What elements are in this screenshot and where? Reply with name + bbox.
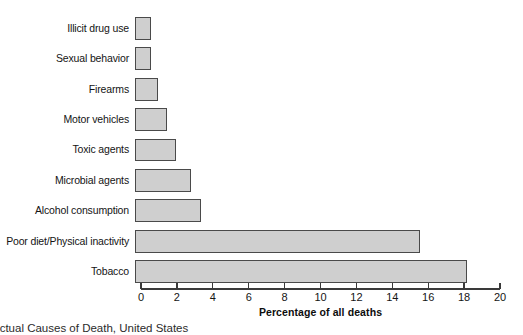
category-label: Toxic agents xyxy=(0,144,135,155)
bar-row: Motor vehicles xyxy=(0,108,523,131)
x-axis-tick xyxy=(320,283,321,289)
category-label: Microbial agents xyxy=(0,175,135,186)
bar xyxy=(135,78,158,101)
bar xyxy=(135,199,201,222)
x-axis-tick xyxy=(463,283,464,289)
category-label: Sexual behavior xyxy=(0,53,135,64)
x-axis-tick xyxy=(392,283,393,289)
bar-row: Sexual behavior xyxy=(0,47,523,70)
x-axis-tick xyxy=(428,283,429,289)
category-label: Poor diet/Physical inactivity xyxy=(0,236,135,247)
x-axis-tick-label: 14 xyxy=(372,291,412,304)
x-axis-tick xyxy=(248,283,249,289)
bar-track xyxy=(135,108,523,131)
x-axis-title: Percentage of all deaths xyxy=(141,306,500,318)
category-label: Illicit drug use xyxy=(0,23,135,34)
bar-track xyxy=(135,47,523,70)
x-axis-tick xyxy=(212,283,213,289)
x-axis-tick-label: 2 xyxy=(157,291,197,304)
bar-row: Firearms xyxy=(0,78,523,101)
bar-track xyxy=(135,230,523,253)
x-axis-tick xyxy=(356,283,357,289)
x-axis-tick-label: 8 xyxy=(265,291,305,304)
bar-row: Illicit drug use xyxy=(0,17,523,40)
bar xyxy=(135,47,151,70)
bar-row: Tobacco xyxy=(0,260,523,283)
x-axis-tick-label: 16 xyxy=(408,291,448,304)
bar-row: Microbial agents xyxy=(0,169,523,192)
x-axis-tick xyxy=(176,283,177,289)
x-axis-tick xyxy=(140,283,141,289)
x-axis-tick-label: 6 xyxy=(229,291,269,304)
x-axis-tick-label: 0 xyxy=(121,291,161,304)
bar-track xyxy=(135,199,523,222)
category-label: Firearms xyxy=(0,84,135,95)
bar xyxy=(135,230,420,253)
x-axis-tick-label: 12 xyxy=(336,291,376,304)
bar-track xyxy=(135,169,523,192)
bar xyxy=(135,17,151,40)
bar xyxy=(135,260,467,283)
bar xyxy=(135,139,176,162)
x-axis-tick-label: 18 xyxy=(444,291,484,304)
bar-track xyxy=(135,17,523,40)
bar-row: Poor diet/Physical inactivity xyxy=(0,230,523,253)
category-label: Tobacco xyxy=(0,266,135,277)
bar xyxy=(135,169,191,192)
x-axis-tick xyxy=(499,283,500,289)
x-axis-tick-label: 4 xyxy=(193,291,233,304)
bar-track xyxy=(135,139,523,162)
bar xyxy=(135,108,167,131)
bar-chart: Illicit drug useSexual behaviorFirearmsM… xyxy=(0,0,523,335)
figure-caption-text: Actual Causes of Death, United States xyxy=(0,322,188,335)
category-label: Motor vehicles xyxy=(0,114,135,125)
x-axis-tick-label: 10 xyxy=(301,291,341,304)
category-label: Alcohol consumption xyxy=(0,205,135,216)
x-axis-tick xyxy=(284,283,285,289)
x-axis-tick-label: 20 xyxy=(480,291,520,304)
bar-track xyxy=(135,78,523,101)
figure-caption-clipped: Actual Causes of Death, United States xyxy=(0,322,300,335)
bar-row: Toxic agents xyxy=(0,139,523,162)
bar-row: Alcohol consumption xyxy=(0,199,523,222)
bar-track xyxy=(135,260,523,283)
plot-area: Illicit drug useSexual behaviorFirearmsM… xyxy=(0,0,523,295)
